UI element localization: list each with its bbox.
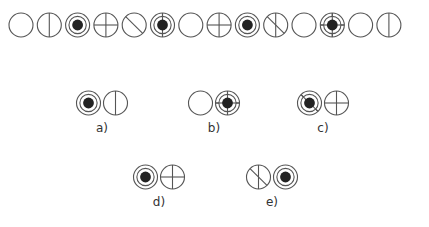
outer-circle bbox=[349, 13, 373, 37]
option-b[interactable] bbox=[189, 91, 240, 115]
filled-dot bbox=[72, 20, 83, 31]
option-symbol-empty-icon bbox=[189, 91, 213, 115]
filled-dot bbox=[242, 20, 253, 31]
option-symbol-cross-icon bbox=[161, 165, 185, 189]
option-label: c) bbox=[317, 122, 328, 134]
option-label: d) bbox=[153, 196, 165, 208]
option-symbol-vertical-icon bbox=[104, 91, 128, 115]
option-a[interactable] bbox=[77, 91, 128, 115]
option-symbol-ring-dot-diagonal-icon bbox=[298, 91, 322, 115]
option-label: e) bbox=[266, 196, 278, 208]
sequence-item-6-ring-dot-vertical-icon bbox=[151, 13, 175, 37]
sequence-item-3-ring-dot-icon bbox=[66, 13, 90, 37]
option-symbol-ring-dot-icon bbox=[274, 165, 298, 189]
sequence-item-12-ring-dot-cross-icon bbox=[320, 13, 344, 37]
filled-dot bbox=[304, 98, 315, 109]
answer-options bbox=[77, 91, 349, 189]
option-label: b) bbox=[208, 122, 220, 134]
sequence-item-9-ring-dot-icon bbox=[235, 13, 259, 37]
sequence-item-8-cross-icon bbox=[207, 13, 231, 37]
filled-dot bbox=[140, 172, 151, 183]
option-symbol-diagonal-vertical-icon bbox=[247, 165, 271, 189]
option-c[interactable] bbox=[298, 91, 349, 115]
sequence-item-2-vertical-icon bbox=[37, 13, 61, 37]
puzzle-figure bbox=[0, 0, 429, 227]
filled-dot bbox=[222, 98, 233, 109]
sequence-item-4-cross-icon bbox=[94, 13, 118, 37]
filled-dot bbox=[157, 20, 168, 31]
outer-circle bbox=[189, 91, 213, 115]
sequence-item-10-diagonal-vertical-icon bbox=[264, 13, 288, 37]
sequence-item-1-empty-icon bbox=[9, 13, 33, 37]
option-symbol-ring-dot-icon bbox=[77, 91, 101, 115]
option-symbol-ring-dot-icon bbox=[134, 165, 158, 189]
filled-dot bbox=[83, 98, 94, 109]
sequence-item-11-empty-icon bbox=[292, 13, 316, 37]
option-e[interactable] bbox=[247, 165, 298, 189]
option-symbol-ring-dot-cross-icon bbox=[216, 91, 240, 115]
filled-dot bbox=[327, 20, 338, 31]
sequence-item-7-empty-icon bbox=[179, 13, 203, 37]
outer-circle bbox=[292, 13, 316, 37]
option-d[interactable] bbox=[134, 165, 185, 189]
filled-dot bbox=[280, 172, 291, 183]
option-label: a) bbox=[96, 122, 108, 134]
outer-circle bbox=[179, 13, 203, 37]
sequence-item-5-diagonal-icon bbox=[122, 13, 146, 37]
sequence-row bbox=[9, 13, 401, 37]
option-symbol-cross-icon bbox=[325, 91, 349, 115]
sequence-item-13-empty-icon bbox=[349, 13, 373, 37]
sequence-item-14-vertical-icon bbox=[377, 13, 401, 37]
outer-circle bbox=[9, 13, 33, 37]
diagonal-line bbox=[126, 17, 143, 34]
